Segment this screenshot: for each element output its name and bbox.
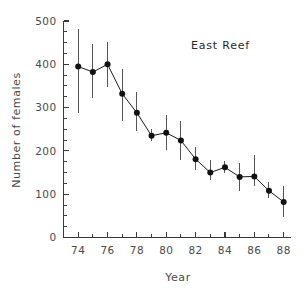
data-point — [149, 133, 155, 139]
x-tick-label: 80 — [159, 244, 173, 256]
line-chart-with-error-bars: 0100200300400500 7476788082848688 East R… — [0, 0, 308, 297]
data-point — [105, 61, 111, 67]
chart-figure: 0100200300400500 7476788082848688 East R… — [0, 0, 308, 297]
y-axis-title: Number of females — [10, 72, 23, 188]
data-point — [281, 199, 287, 205]
y-tick-label: 500 — [35, 15, 56, 27]
data-point — [119, 91, 125, 97]
data-point — [178, 138, 184, 144]
data-point — [251, 173, 257, 179]
data-point — [90, 69, 96, 75]
x-tick-label: 84 — [218, 244, 232, 256]
panel-title: East Reef — [191, 39, 250, 52]
x-tick-label: 76 — [100, 244, 114, 256]
x-tick-label: 82 — [189, 244, 203, 256]
x-tick-label: 74 — [71, 244, 85, 256]
data-point — [193, 156, 199, 162]
y-tick-label: 0 — [49, 231, 56, 243]
x-tick-label: 78 — [130, 244, 144, 256]
data-point — [75, 63, 81, 69]
y-tick-label: 300 — [35, 101, 56, 113]
x-axis-title: Year — [164, 271, 191, 284]
x-tick-label: 86 — [247, 244, 261, 256]
data-point — [266, 188, 272, 194]
y-tick-label: 400 — [35, 58, 56, 70]
y-tick-label: 200 — [35, 145, 56, 157]
data-point — [163, 130, 169, 136]
y-tick-label: 100 — [35, 188, 56, 200]
data-point — [207, 170, 213, 176]
data-point — [222, 164, 228, 170]
x-tick-label: 88 — [277, 244, 291, 256]
data-point — [134, 110, 140, 116]
data-point — [237, 174, 243, 180]
